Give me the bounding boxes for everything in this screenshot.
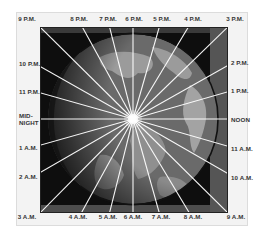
label-8pm: 8 P.M. <box>70 15 88 22</box>
label-4am: 4 A.M. <box>69 213 88 220</box>
label-11am: 11 A.M. <box>231 145 253 152</box>
label-midnight-line1: MID- <box>19 112 33 119</box>
label-9pm: 9 P.M. <box>18 15 36 22</box>
label-3pm: 3 P.M. <box>226 15 244 22</box>
label-11pm: 11 P.M. <box>19 88 40 95</box>
label-midnight-line2: NIGHT <box>19 119 39 126</box>
label-7am: 7 A.M. <box>152 213 171 220</box>
label-5am: 5 A.M. <box>99 213 118 220</box>
label-3am: 3 A.M. <box>18 213 37 220</box>
label-6am: 6 A.M. <box>124 213 143 220</box>
label-5pm: 5 P.M. <box>153 15 171 22</box>
label-2pm: 2 P.M. <box>231 59 249 66</box>
label-6pm: 6 P.M. <box>125 15 143 22</box>
label-9am: 9 A.M. <box>227 213 246 220</box>
label-2am: 2 A.M. <box>19 173 38 180</box>
label-8am: 8 A.M. <box>184 213 203 220</box>
globe-panel <box>40 27 228 213</box>
label-1pm: 1 P.M. <box>231 87 249 94</box>
label-7pm: 7 P.M. <box>99 15 117 22</box>
label-noon: NOON <box>231 116 250 123</box>
label-1am: 1 A.M. <box>19 144 38 151</box>
label-4pm: 4 P.M. <box>184 15 202 22</box>
label-10am: 10 A.M. <box>231 174 253 181</box>
label-10pm: 10 P.M. <box>19 60 40 67</box>
